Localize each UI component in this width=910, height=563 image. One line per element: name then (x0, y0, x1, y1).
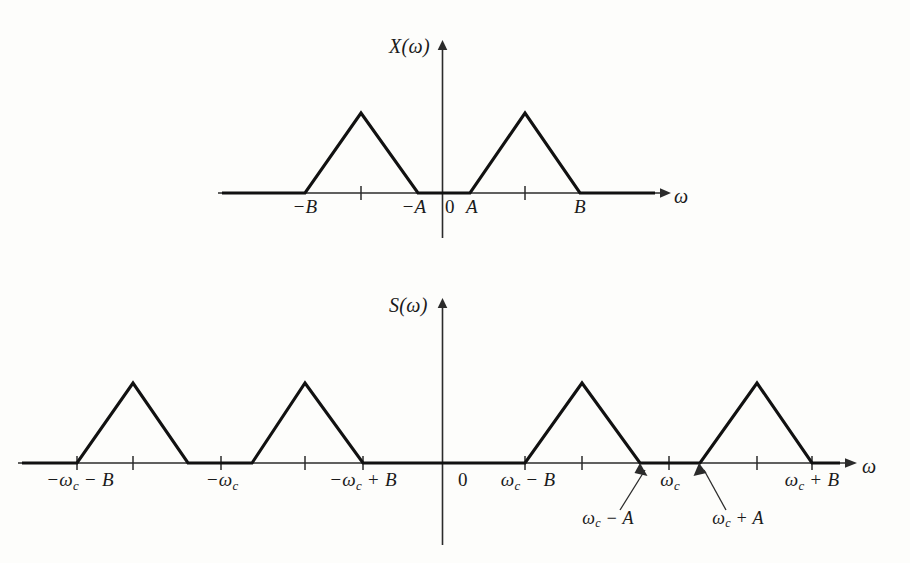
annotation-arrowhead-wc-plus-a (694, 463, 707, 476)
top-tick-label-minus-b: −B (292, 197, 317, 216)
annotation-line-wc-plus-a (704, 470, 726, 510)
bottom-tick-label-neg-wc-minus-b: −ωc − B (46, 470, 114, 493)
top-tick-label-zero: 0 (445, 197, 455, 216)
top-tick-label-b: B (574, 197, 586, 216)
bottom-vertical-axis-arrowhead (438, 298, 448, 308)
bottom-tick-label-wc-minus-b: ωc − B (501, 470, 556, 493)
bottom-tick-label-neg-wc: −ωc (206, 470, 239, 493)
bottom-signal-trace (22, 383, 840, 463)
bottom-annotation-label-wc-plus-a: ωc + A (712, 509, 763, 530)
bottom-tick-label-zero: 0 (458, 470, 468, 489)
bottom-annotation-label-wc-minus-a: ωc − A (582, 509, 633, 530)
top-axis-label-y: X(ω) (389, 36, 430, 56)
top-horizontal-axis-arrowhead (660, 188, 671, 198)
top-tick-label-minus-a: −A (401, 197, 426, 216)
spectrum-figure-svg (0, 0, 910, 563)
bottom-tick-label-wc: ωc (660, 470, 679, 493)
top-tick-label-a: A (466, 197, 478, 216)
top-vertical-axis-arrowhead (438, 40, 448, 50)
bottom-horizontal-axis-arrowhead (845, 458, 857, 468)
top-signal-trace (222, 113, 655, 193)
bottom-tick-label-neg-wc-plus-b: −ωc + B (329, 470, 397, 493)
bottom-axis-label-y: S(ω) (389, 295, 428, 315)
bottom-axis-label-x: ω (862, 456, 876, 476)
bottom-tick-label-wc-plus-b: ωc + B (785, 470, 840, 493)
figure-root: X(ω) ω −B −A 0 A B S(ω) ω −ωc − B −ωc −ω… (0, 0, 910, 563)
top-axis-label-x: ω (674, 186, 688, 206)
annotation-arrowhead-wc-minus-a (635, 463, 648, 476)
annotation-line-wc-minus-a (620, 470, 645, 510)
